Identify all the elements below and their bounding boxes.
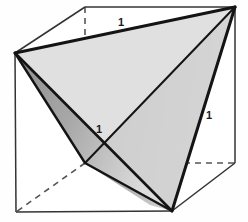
cube-edge-front-left-vertical [15,53,16,212]
tetrahedron-in-cube-figure: 1 1 1 [0,0,248,222]
top-edge-length-label: 1 [118,17,124,28]
cube-edge-bottom-front [16,211,172,212]
center-edge-length-label: 1 [96,124,102,135]
right-edge-length-label: 1 [206,110,212,121]
